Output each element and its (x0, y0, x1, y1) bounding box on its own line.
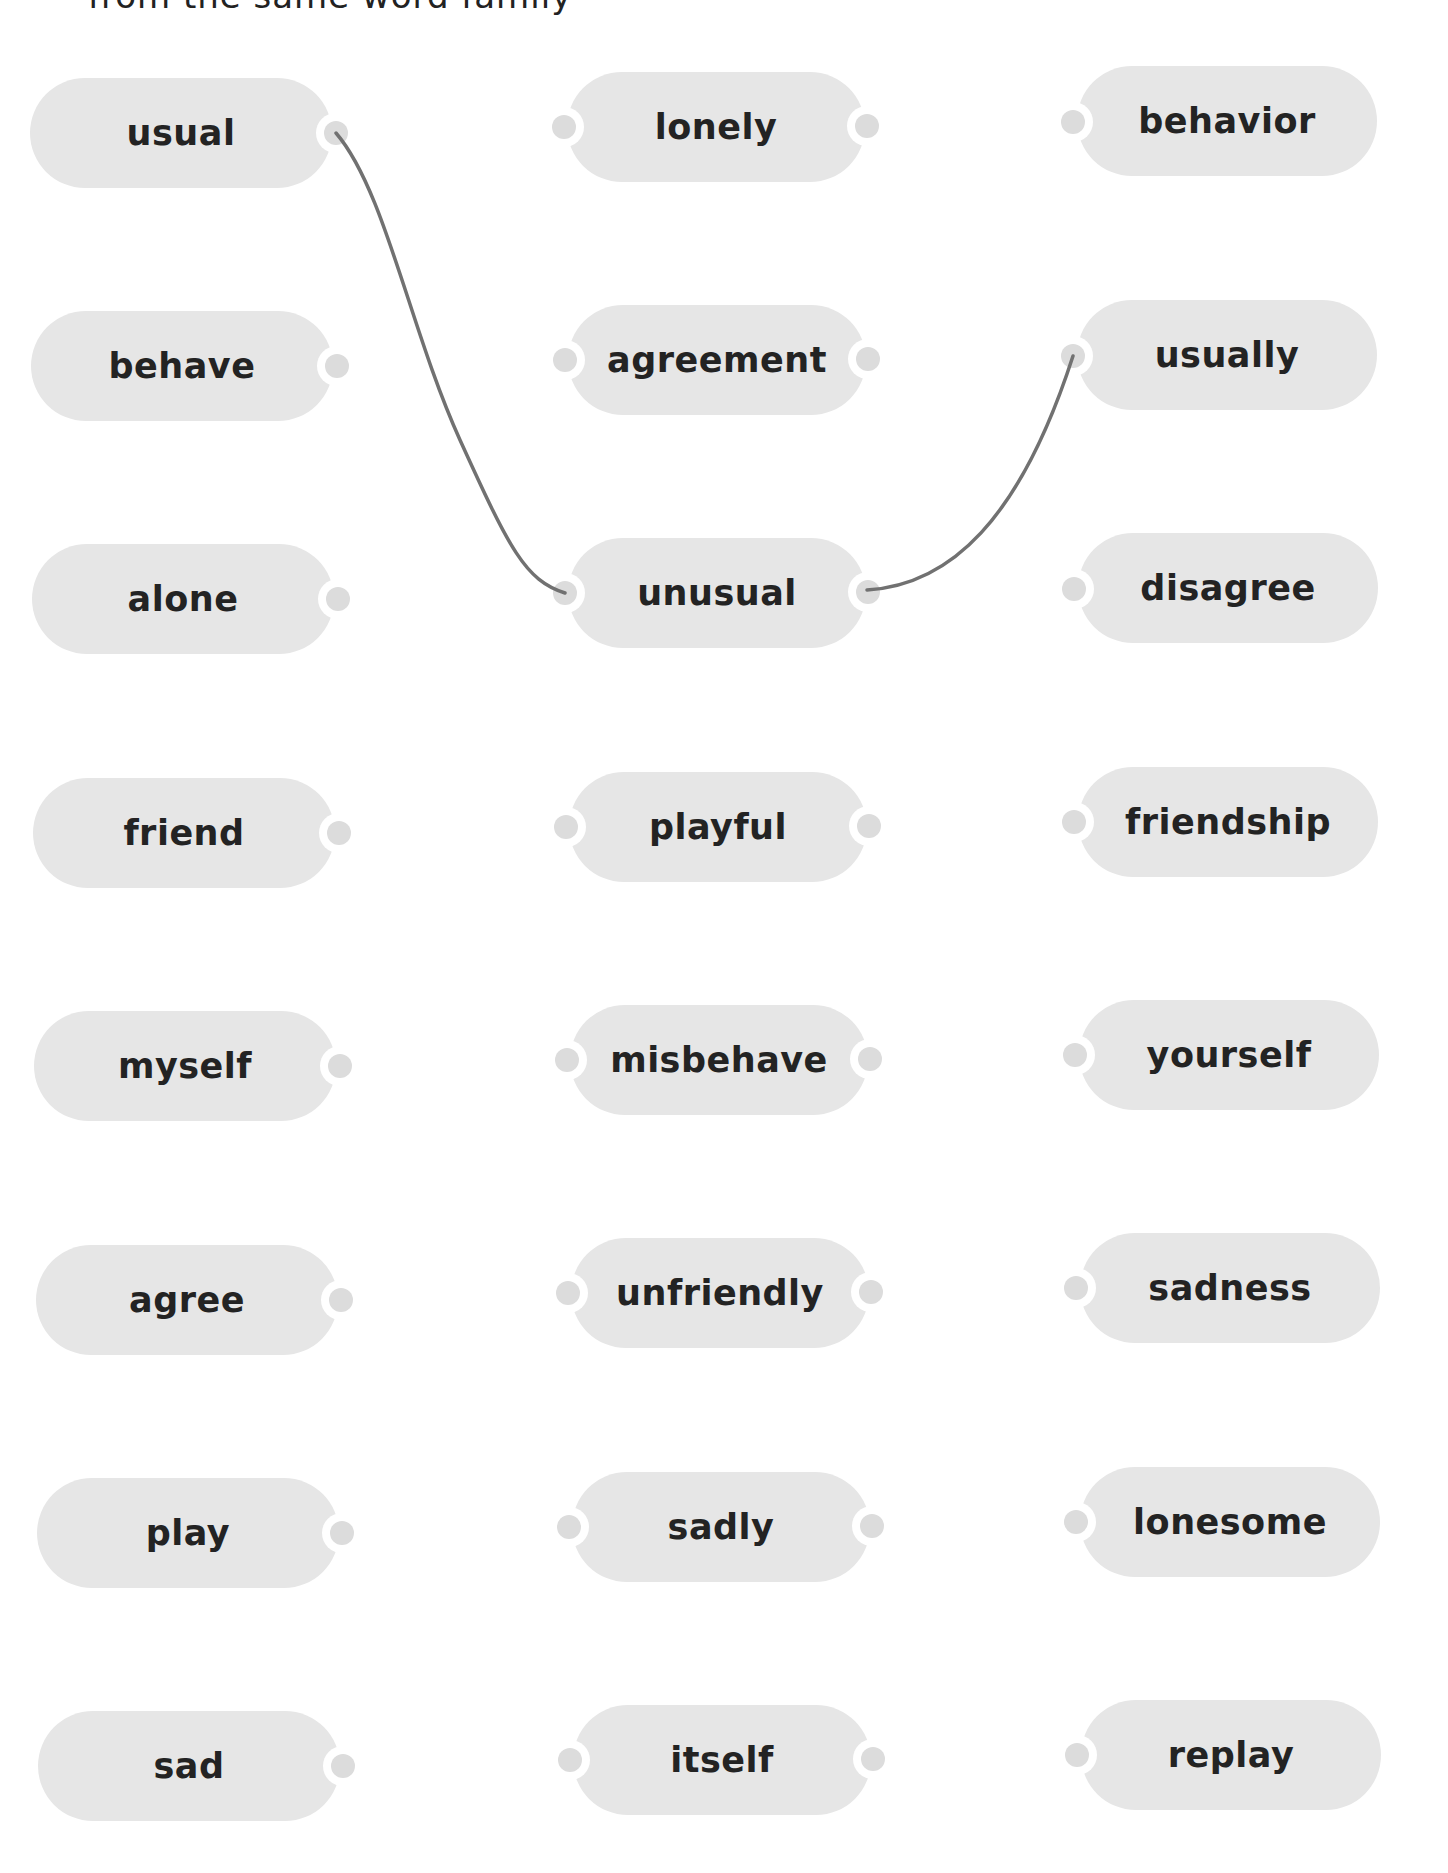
word-label: yourself (1147, 1035, 1312, 1075)
word-card-left-6[interactable]: agree (36, 1245, 338, 1355)
word-card-right-8[interactable]: replay (1081, 1700, 1381, 1810)
connector-dot-left[interactable] (544, 107, 584, 147)
connector-dot-left[interactable] (1054, 569, 1094, 609)
dot-icon (552, 115, 576, 139)
connector-dot-left[interactable] (1057, 1735, 1097, 1775)
connection-line-unusual-usually[interactable] (867, 356, 1073, 590)
word-card-middle-4[interactable]: playful (569, 772, 867, 882)
connector-dot-right[interactable] (323, 1746, 363, 1786)
dot-icon (327, 821, 351, 845)
connector-dot-right[interactable] (851, 1272, 891, 1312)
word-label: disagree (1140, 568, 1315, 608)
word-card-middle-6[interactable]: unfriendly (571, 1238, 869, 1348)
connector-dot-left[interactable] (548, 1273, 588, 1313)
word-label: behavior (1138, 101, 1315, 141)
dot-icon (1061, 110, 1085, 134)
word-label: unusual (637, 573, 797, 613)
word-card-left-7[interactable]: play (37, 1478, 339, 1588)
connector-dot-right[interactable] (853, 1739, 893, 1779)
word-card-left-3[interactable]: alone (32, 544, 334, 654)
word-label: behave (109, 346, 256, 386)
dot-icon (860, 1514, 884, 1538)
connector-dot-right[interactable] (320, 1046, 360, 1086)
word-label: agree (129, 1280, 245, 1320)
dot-icon (325, 354, 349, 378)
instruction-text: from the same word family (88, 0, 572, 16)
word-label: usual (127, 113, 236, 153)
connector-dot-right[interactable] (852, 1506, 892, 1546)
word-label: sad (153, 1746, 224, 1786)
word-label: sadly (668, 1507, 775, 1547)
word-card-middle-5[interactable]: misbehave (570, 1005, 868, 1115)
connector-dot-left[interactable] (545, 573, 585, 613)
dot-icon (861, 1747, 885, 1771)
dot-icon (557, 1515, 581, 1539)
word-card-left-1[interactable]: usual (30, 78, 332, 188)
word-label: play (146, 1513, 230, 1553)
connector-dot-right[interactable] (849, 806, 889, 846)
word-label: itself (670, 1740, 774, 1780)
dot-icon (856, 580, 880, 604)
connector-dot-left[interactable] (550, 1740, 590, 1780)
connection-line-usual-unusual[interactable] (336, 133, 565, 593)
word-card-middle-2[interactable]: agreement (568, 305, 866, 415)
word-label: lonely (655, 107, 778, 147)
dot-icon (1062, 577, 1086, 601)
connector-dot-right[interactable] (848, 339, 888, 379)
word-card-left-2[interactable]: behave (31, 311, 333, 421)
connector-dot-left[interactable] (1055, 1035, 1095, 1075)
dot-icon (1062, 810, 1086, 834)
dot-icon (556, 1281, 580, 1305)
connector-dot-right[interactable] (318, 579, 358, 619)
word-card-right-4[interactable]: friendship (1078, 767, 1378, 877)
word-card-left-8[interactable]: sad (38, 1711, 340, 1821)
connector-dot-left[interactable] (545, 340, 585, 380)
dot-icon (330, 1521, 354, 1545)
dot-icon (554, 815, 578, 839)
connector-dot-right[interactable] (317, 346, 357, 386)
connector-dot-left[interactable] (1053, 102, 1093, 142)
word-label: friendship (1125, 802, 1331, 842)
word-card-right-6[interactable]: sadness (1080, 1233, 1380, 1343)
word-card-right-2[interactable]: usually (1077, 300, 1377, 410)
dot-icon (855, 114, 879, 138)
word-card-right-7[interactable]: lonesome (1080, 1467, 1380, 1577)
word-card-middle-1[interactable]: lonely (567, 72, 865, 182)
dot-icon (1061, 344, 1085, 368)
word-card-middle-3[interactable]: unusual (568, 538, 866, 648)
word-label: myself (118, 1046, 252, 1086)
connector-dot-left[interactable] (549, 1507, 589, 1547)
connector-dot-right[interactable] (321, 1280, 361, 1320)
word-label: agreement (607, 340, 827, 380)
dot-icon (558, 1748, 582, 1772)
dot-icon (859, 1280, 883, 1304)
connector-dot-left[interactable] (546, 807, 586, 847)
word-label: misbehave (610, 1040, 828, 1080)
dot-icon (331, 1754, 355, 1778)
connector-dot-right[interactable] (847, 106, 887, 146)
word-card-left-4[interactable]: friend (33, 778, 335, 888)
word-card-middle-7[interactable]: sadly (572, 1472, 870, 1582)
word-label: replay (1168, 1735, 1294, 1775)
connector-dot-left[interactable] (547, 1040, 587, 1080)
connector-dot-right[interactable] (848, 572, 888, 612)
dot-icon (553, 348, 577, 372)
dot-icon (856, 347, 880, 371)
dot-icon (555, 1048, 579, 1072)
connector-dot-left[interactable] (1056, 1268, 1096, 1308)
dot-icon (1063, 1043, 1087, 1067)
connector-dot-right[interactable] (850, 1039, 890, 1079)
word-card-right-3[interactable]: disagree (1078, 533, 1378, 643)
connector-dot-left[interactable] (1053, 336, 1093, 376)
word-card-middle-8[interactable]: itself (573, 1705, 871, 1815)
connector-dot-right[interactable] (316, 113, 356, 153)
word-card-right-1[interactable]: behavior (1077, 66, 1377, 176)
word-card-left-5[interactable]: myself (34, 1011, 336, 1121)
connector-dot-left[interactable] (1056, 1502, 1096, 1542)
dot-icon (1064, 1510, 1088, 1534)
connector-dot-right[interactable] (319, 813, 359, 853)
dot-icon (324, 121, 348, 145)
connector-dot-right[interactable] (322, 1513, 362, 1553)
connector-dot-left[interactable] (1054, 802, 1094, 842)
word-card-right-5[interactable]: yourself (1079, 1000, 1379, 1110)
